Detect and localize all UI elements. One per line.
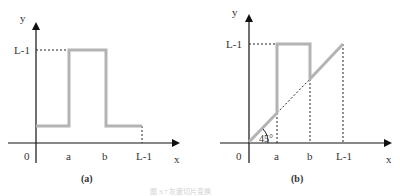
x-axis-label: x [386, 153, 392, 165]
x-tick-b: b [307, 150, 313, 162]
figure-caption: 图 3.7 灰度切片变换 [150, 187, 211, 196]
y-tick-l1: L-1 [14, 44, 30, 56]
panel-a: y L-1 0 a b L-1 x (a) [8, 12, 180, 185]
figure: y L-1 0 a b L-1 x (a) 45° y L-1 0 a b L-… [0, 0, 400, 196]
transfer-curve [249, 44, 343, 142]
transfer-curve [36, 50, 142, 126]
x-tick-a: a [66, 150, 71, 162]
angle-label: 45° [259, 133, 273, 144]
caption-b: (b) [291, 173, 303, 185]
origin-label: 0 [24, 150, 30, 162]
x-tick-b: b [102, 150, 108, 162]
x-axis-label: x [174, 153, 180, 165]
x-tick-l1: L-1 [136, 150, 152, 162]
origin-label: 0 [236, 150, 242, 162]
dashed-diagonal [277, 79, 310, 113]
panel-b: 45° y L-1 0 a b L-1 x (b) [220, 6, 392, 185]
y-axis-label: y [232, 6, 238, 18]
caption-a: (a) [81, 173, 93, 185]
y-axis-label: y [20, 12, 26, 24]
x-tick-l1: L-1 [336, 150, 352, 162]
y-tick-l1: L-1 [226, 38, 242, 50]
x-tick-a: a [274, 150, 279, 162]
